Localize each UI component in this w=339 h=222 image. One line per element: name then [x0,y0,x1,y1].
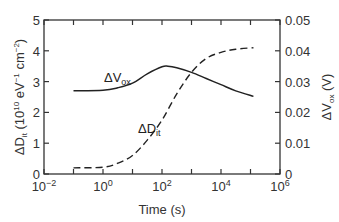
series-label-delta-vox: ΔVox [104,70,131,87]
y-left-tick-label: 3 [33,75,40,90]
y-right-tick-label: 0.05 [285,13,310,28]
x-tick-label: 104 [211,178,230,194]
series-delta-vox-line [74,66,254,96]
y-left-tick-label: 2 [33,105,40,120]
x-axis-title: Time (s) [138,202,185,217]
y-right-tick-label: 0 [285,167,292,182]
y-left-tick-label: 4 [33,44,40,59]
chart: 10−210010210410601234500.010.020.030.040… [0,0,339,222]
y-left-tick-label: 0 [33,167,40,182]
plot-frame [44,20,280,174]
y-right-tick-label: 0.04 [285,44,310,59]
x-tick-label: 100 [93,178,112,194]
y-axis-title-left: ΔDit (1010 eV−1 cm−2) [12,39,29,155]
y-right-tick-label: 0.01 [285,136,310,151]
y-left-tick-label: 1 [33,136,40,151]
series-label-delta-dit: ΔDit [138,121,161,138]
y-left-tick-label: 5 [33,13,40,28]
y-axis-title-right: ΔVox (V) [319,74,336,121]
y-right-tick-label: 0.03 [285,75,310,90]
x-tick-label: 102 [152,178,171,194]
axis-ticks [44,20,280,174]
y-right-tick-label: 0.02 [285,105,310,120]
